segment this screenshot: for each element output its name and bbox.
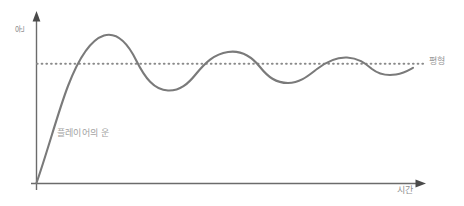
equilibrium-label: 평형 <box>429 57 445 67</box>
chart-canvas <box>0 0 464 206</box>
series-label-player-luck: 플레이어의 운 <box>57 129 109 139</box>
damped-oscillation-chart: 운 시간 평형 플레이어의 운 <box>0 0 464 206</box>
x-axis-label: 시간 <box>397 186 413 196</box>
player-luck-curve <box>37 35 414 183</box>
y-axis-arrowhead <box>33 11 41 22</box>
y-axis-label: 운 <box>16 25 26 33</box>
x-axis-arrowhead <box>416 179 427 187</box>
